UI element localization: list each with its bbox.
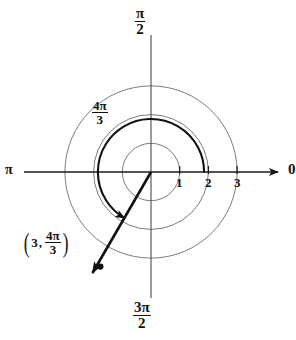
axis-label-pi: π bbox=[5, 163, 13, 177]
axis-label-pi-over-2-numerator: π bbox=[135, 6, 145, 22]
plotted-point bbox=[97, 264, 103, 270]
axis-label-3pi-over-2: 3π 2 bbox=[133, 300, 151, 332]
axis-label-3pi-over-2-denominator: 2 bbox=[133, 316, 151, 331]
point-label-theta-numerator: 4π bbox=[45, 229, 61, 243]
axis-label-pi-over-2-denominator: 2 bbox=[135, 22, 145, 37]
point-label-comma: , bbox=[39, 236, 42, 249]
angle-label-numerator: 4π bbox=[92, 99, 108, 113]
radial-tick-marks bbox=[180, 166, 237, 174]
angle-label-4pi-over-3: 4π 3 bbox=[92, 99, 108, 127]
axis-label-zero: 0 bbox=[288, 162, 296, 177]
radial-tick-label-2: 2 bbox=[205, 176, 212, 189]
polar-diagram-canvas bbox=[0, 0, 296, 340]
angle-label-denominator: 3 bbox=[92, 113, 108, 126]
axis-label-3pi-over-2-numerator: 3π bbox=[133, 300, 151, 316]
radial-tick-label-1: 1 bbox=[176, 176, 183, 189]
point-label-theta-denominator: 3 bbox=[45, 243, 61, 256]
radial-tick-label-3: 3 bbox=[234, 176, 241, 189]
point-label-ordered-pair: ( 3 , 4π 3 ) bbox=[22, 229, 70, 257]
point-label-open-paren: ( bbox=[24, 232, 30, 254]
point-label-close-paren: ) bbox=[62, 232, 68, 254]
point-label-radius: 3 bbox=[31, 236, 38, 249]
axis-label-pi-over-2: π 2 bbox=[135, 6, 145, 38]
